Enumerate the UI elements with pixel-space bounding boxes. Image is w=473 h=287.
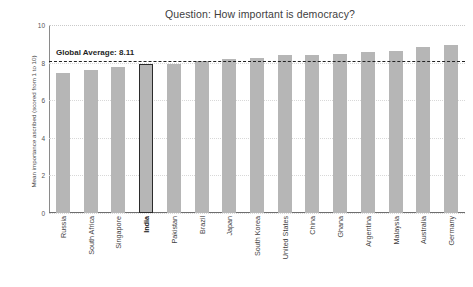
bar-slot	[243, 25, 271, 213]
bar-slot	[188, 25, 216, 213]
x-tick-label: Argentina	[363, 216, 372, 247]
x-tick-label: China	[308, 216, 317, 235]
chart-title: Question: How important is democracy?	[60, 8, 460, 20]
bar-slot	[437, 25, 465, 213]
x-tick-label: Malaysia	[391, 216, 400, 244]
x-tick: China	[299, 216, 327, 284]
x-tick-label: Ghana	[336, 216, 345, 238]
y-tick-label: 4	[41, 134, 45, 141]
chart-container: Question: How important is democracy? Me…	[0, 0, 473, 287]
x-tick: South Korea	[243, 216, 271, 284]
bar[interactable]	[278, 55, 292, 213]
x-tick: Australia	[410, 216, 438, 284]
x-tick-label: United States	[280, 216, 289, 259]
bar-slot	[326, 25, 354, 213]
x-tick: Brazil	[188, 216, 216, 284]
bar-slot	[299, 25, 327, 213]
x-tick-label: South Korea	[252, 216, 261, 256]
bar-slot	[132, 25, 160, 213]
global-average-label: Global Average: 8.11	[56, 48, 134, 57]
bar[interactable]	[167, 64, 181, 213]
bar[interactable]	[444, 45, 458, 213]
bar[interactable]	[250, 58, 264, 213]
y-tick-label: 2	[41, 172, 45, 179]
x-axis-tick-labels: RussiaSouth AfricaSingaporeIndiaPakistan…	[49, 216, 465, 286]
x-tick-label: Japan	[225, 216, 234, 236]
bar[interactable]	[56, 73, 70, 213]
x-tick-label: Pakistan	[169, 216, 178, 244]
bar-slot	[215, 25, 243, 213]
x-tick-label: South Africa	[86, 216, 95, 255]
y-tick-label: 6	[41, 97, 45, 104]
bar-slot	[354, 25, 382, 213]
x-tick: India	[132, 216, 160, 284]
x-tick-label: Brazil	[197, 216, 206, 234]
bar[interactable]	[333, 54, 347, 213]
x-tick: Malaysia	[382, 216, 410, 284]
x-tick: South Africa	[77, 216, 105, 284]
x-tick: Ghana	[326, 216, 354, 284]
x-tick-label: Russia	[58, 216, 67, 238]
bar[interactable]	[389, 51, 403, 213]
x-tick: Japan	[215, 216, 243, 284]
bar[interactable]	[195, 61, 209, 213]
x-tick: United States	[271, 216, 299, 284]
bar-slot	[271, 25, 299, 213]
y-tick-label: 8	[41, 59, 45, 66]
bar-slot	[160, 25, 188, 213]
x-tick-label: India	[142, 216, 151, 233]
bar[interactable]	[111, 67, 125, 213]
y-axis-label: Mean importance ascribed (scored from 1 …	[30, 32, 37, 212]
bar[interactable]	[222, 59, 236, 213]
x-tick: Pakistan	[160, 216, 188, 284]
x-tick: Russia	[49, 216, 77, 284]
gridline	[49, 213, 465, 214]
bar-highlighted[interactable]	[139, 64, 153, 213]
x-tick-label: Germany	[447, 216, 456, 246]
plot-area: 0246810 Global Average: 8.11	[49, 25, 465, 213]
bar[interactable]	[416, 47, 430, 213]
x-tick-label: Australia	[419, 216, 428, 244]
global-average-line	[49, 61, 465, 62]
bar[interactable]	[305, 55, 319, 213]
bar[interactable]	[84, 70, 98, 213]
bar-slot	[410, 25, 438, 213]
x-tick-label: Singapore	[114, 216, 123, 249]
bar[interactable]	[361, 52, 375, 213]
y-tick-label: 0	[41, 210, 45, 217]
x-tick: Argentina	[354, 216, 382, 284]
x-tick: Singapore	[104, 216, 132, 284]
x-tick: Germany	[437, 216, 465, 284]
bar-slot	[382, 25, 410, 213]
y-tick-label: 10	[38, 22, 45, 29]
